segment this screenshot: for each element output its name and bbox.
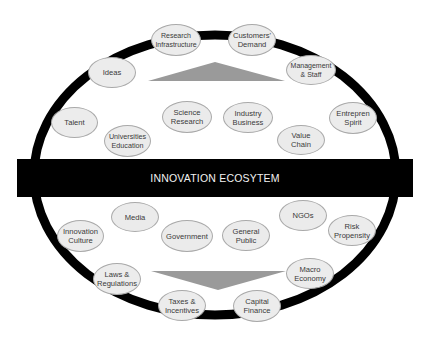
- innovation-ecosystem-diagram: INNOVATION ECOSYTEM Research Infrastruct…: [0, 0, 429, 338]
- node-taxes-incentives: Taxes & Incentives: [158, 290, 206, 321]
- node-science-research: Science Research: [162, 101, 212, 133]
- node-macro-economy: Macro Economy: [286, 258, 334, 289]
- upward-triangle-icon: [148, 62, 285, 81]
- node-laws-regulations: Laws & Regulations: [93, 263, 141, 295]
- node-risk-propensity: Risk Propensity: [328, 215, 376, 246]
- downward-triangle-icon: [151, 271, 286, 290]
- node-media: Media: [111, 202, 159, 232]
- node-innovation-culture: Innovation Culture: [57, 220, 104, 252]
- node-customers-demand: Customers' Demand: [228, 24, 276, 56]
- node-management-staff: Management & Staff: [286, 55, 336, 85]
- node-value-chain: Value Chain: [277, 125, 325, 155]
- node-research-infrastructure: Research Infrastructure: [151, 24, 201, 56]
- node-entrepren-spirit: Entrepren Spirit: [329, 102, 377, 134]
- node-government: Government: [161, 220, 213, 252]
- node-talent: Talent: [51, 107, 98, 138]
- banner-title: INNOVATION ECOSYTEM: [150, 172, 279, 184]
- node-general-public: General Public: [222, 220, 270, 251]
- node-ngos: NGOs: [279, 200, 327, 231]
- node-industry-business: Industry Business: [223, 102, 273, 133]
- node-capital-finance: Capital Finance: [233, 290, 281, 322]
- node-ideas: Ideas: [88, 57, 136, 88]
- innovation-ecosystem-banner: INNOVATION ECOSYTEM: [17, 159, 413, 197]
- node-universities-education: Universities Education: [104, 125, 151, 157]
